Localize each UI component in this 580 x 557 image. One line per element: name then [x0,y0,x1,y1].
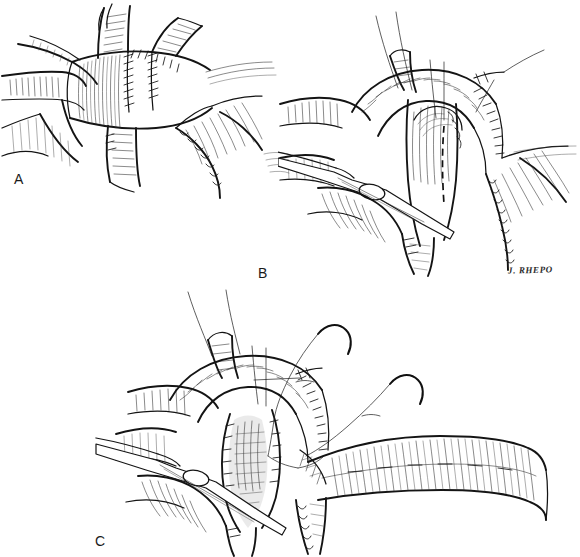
panel-label-a: A [14,172,24,186]
artist-signature: J. RHEPO [508,264,553,275]
panel-b-illustration [278,8,580,278]
planned-incision-line [443,126,445,204]
panel-c-drawing [60,288,580,557]
panel-c-illustration [60,288,580,557]
bowel-limb-inferior-border [318,490,546,520]
anastomotic-suture-line [474,88,504,154]
panel-b-drawing [278,8,580,278]
surgical-figure-plate: A B C J. RHEPO [0,0,580,557]
curved-needle-upper [274,325,351,420]
completed-suture-line [298,376,327,450]
panel-label-c: C [95,534,106,548]
panel-a-drawing [0,0,290,200]
bowel-limb-superior-border [308,436,546,470]
panel-a-illustration [0,0,290,200]
panel-label-b: B [258,266,268,280]
